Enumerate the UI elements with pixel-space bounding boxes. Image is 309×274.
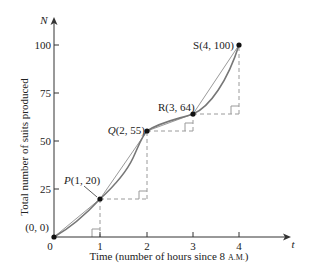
x-tick-label-4: 4 <box>236 240 242 252</box>
y-tick-label-25: 25 <box>40 183 52 195</box>
point-q <box>144 128 149 133</box>
point-s <box>236 42 241 47</box>
point-origin <box>51 234 56 239</box>
x-axis-var-label: t <box>291 238 295 250</box>
point-origin-label: (0, 0) <box>25 221 49 234</box>
point-p <box>97 196 102 201</box>
axes <box>54 20 288 237</box>
y-ticks <box>54 45 59 189</box>
y-axis-var-label: N <box>39 14 48 26</box>
dashed-guides <box>100 45 239 237</box>
x-axis-title: Time (number of hours since 8 A.M.) <box>90 250 249 263</box>
x-tick-label-0: 0 <box>47 240 53 252</box>
y-tick-label-100: 100 <box>35 39 52 51</box>
point-r-label: R(3, 64) <box>158 101 195 114</box>
p-leader-line <box>84 186 97 197</box>
suits-production-chart: 0 1 2 3 4 25 50 75 100 N t Time (number … <box>0 0 309 274</box>
x-ticks <box>100 232 239 237</box>
point-p-label: P(1, 20) <box>63 174 100 187</box>
y-axis-title: Total number of suits produced <box>18 78 30 216</box>
y-tick-label-75: 75 <box>40 87 52 99</box>
y-tick-label-50: 50 <box>40 135 52 147</box>
point-q-label: Q(2, 55) <box>108 124 146 137</box>
point-s-label: S(4, 100) <box>193 39 234 52</box>
